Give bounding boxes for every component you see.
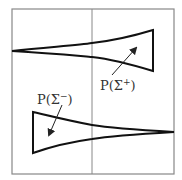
- diagram-canvas: P(Σ+) P(Σ−): [0, 0, 182, 180]
- sigma-minus-region: [33, 112, 174, 153]
- sigma-minus-label: P(Σ−): [37, 91, 73, 107]
- sigma-plus-label: P(Σ+): [100, 77, 136, 93]
- sigma-minus-arrow: [49, 105, 62, 135]
- sigma-plus-region: [12, 30, 153, 71]
